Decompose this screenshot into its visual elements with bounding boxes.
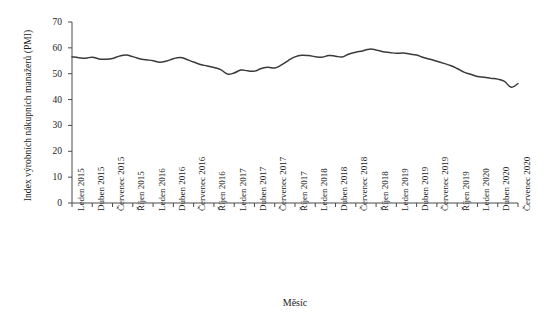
pmi-line-chart-figure: Index výrobních nákupních manažerů (PMI)… [0, 0, 552, 325]
axis-lines [72, 22, 518, 203]
x-axis-ticks [72, 203, 518, 207]
pmi-series-line [72, 49, 518, 87]
y-axis-ticks [68, 22, 72, 203]
plot-area [0, 0, 552, 325]
